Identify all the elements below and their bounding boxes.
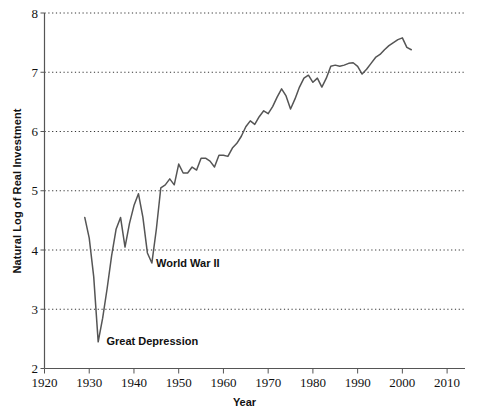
- chart-annotation-label: Great Depression: [106, 334, 198, 348]
- gridlines: [45, 13, 466, 309]
- y-tick-label: 5: [4, 183, 38, 198]
- y-tick-label: 7: [4, 65, 38, 80]
- y-tick-label: 8: [4, 6, 38, 21]
- y-tick-label: 4: [4, 243, 38, 258]
- x-tick-label: 2010: [417, 375, 477, 391]
- y-tick-label: 3: [4, 302, 38, 317]
- chart-annotation-label: World War II: [156, 256, 220, 270]
- x-axis-title: Year: [0, 396, 489, 408]
- data-series-line: [85, 38, 412, 342]
- y-tick-label: 6: [4, 124, 38, 139]
- x-axis-ticks: [45, 369, 448, 374]
- investment-line-chart: Natural Log of Real Investment Year 2345…: [0, 0, 489, 418]
- chart-plot-area: [0, 0, 489, 418]
